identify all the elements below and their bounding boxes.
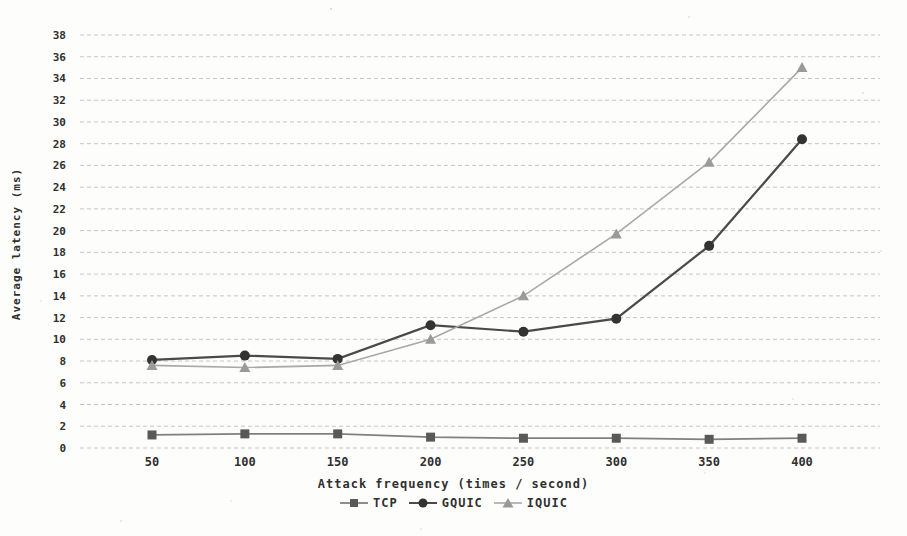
legend-item-iquic: IQUIC [493, 496, 568, 510]
legend-label-tcp: TCP [373, 496, 398, 510]
svg-text:18: 18 [53, 246, 66, 259]
plot-area: 0246810121416182022242628303234363850100… [0, 0, 907, 475]
svg-text:20: 20 [53, 225, 66, 238]
svg-text:200: 200 [420, 455, 442, 469]
legend-label-iquic: IQUIC [527, 496, 568, 510]
legend-item-tcp: TCP [339, 496, 398, 510]
svg-text:28: 28 [53, 138, 66, 151]
legend: TCP GQUIC IQUIC [0, 496, 907, 510]
latency-line-chart: 0246810121416182022242628303234363850100… [0, 0, 907, 536]
gquic-line-circle-icon [408, 497, 438, 509]
svg-text:36: 36 [53, 51, 67, 64]
svg-text:26: 26 [53, 159, 67, 172]
svg-text:16: 16 [53, 268, 67, 281]
svg-text:24: 24 [53, 181, 67, 194]
svg-text:150: 150 [327, 455, 349, 469]
svg-text:10: 10 [53, 333, 66, 346]
svg-text:400: 400 [791, 455, 813, 469]
svg-text:8: 8 [59, 355, 66, 368]
svg-text:100: 100 [234, 455, 256, 469]
iquic-line-triangle-icon [493, 497, 523, 509]
svg-text:22: 22 [53, 203, 66, 216]
legend-label-gquic: GQUIC [442, 496, 483, 510]
svg-text:300: 300 [605, 455, 627, 469]
svg-text:350: 350 [698, 455, 720, 469]
svg-text:4: 4 [59, 399, 66, 412]
svg-text:30: 30 [53, 116, 66, 129]
svg-text:34: 34 [53, 72, 67, 85]
svg-text:12: 12 [53, 312, 66, 325]
svg-text:50: 50 [145, 455, 159, 469]
svg-text:2: 2 [59, 420, 66, 433]
scan-noise [0, 0, 2, 2]
svg-text:250: 250 [513, 455, 535, 469]
svg-text:32: 32 [53, 94, 66, 107]
legend-item-gquic: GQUIC [408, 496, 483, 510]
svg-text:38: 38 [53, 29, 66, 42]
svg-text:0: 0 [59, 442, 66, 455]
x-axis-title: Attack frequency (times / second) [0, 477, 907, 491]
svg-text:6: 6 [59, 377, 66, 390]
y-axis-title: Average latency (ms) [10, 104, 26, 384]
tcp-line-square-icon [339, 497, 369, 509]
svg-text:14: 14 [53, 290, 67, 303]
